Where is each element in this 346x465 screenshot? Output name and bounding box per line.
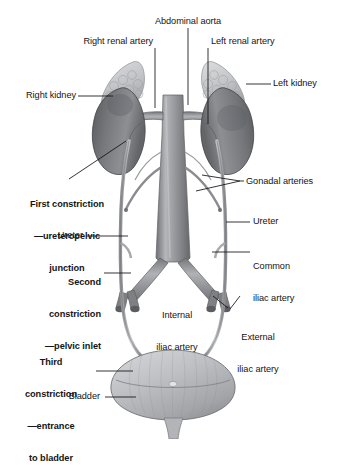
label-gonadal-arteries: Gonadal arteries	[246, 176, 346, 187]
left-kidney-group	[201, 62, 254, 175]
label-internal-iliac-artery: Internal iliac artery	[143, 289, 211, 374]
label-third-constriction-line3: —entrance	[8, 421, 94, 432]
label-ureter-right: Ureter	[253, 216, 303, 227]
label-right-kidney: Right kidney	[3, 90, 76, 101]
leader-external-iliac	[230, 296, 240, 309]
label-internal-iliac-line2: iliac artery	[143, 342, 211, 353]
urethra-shape	[164, 418, 183, 439]
label-common-iliac-line2: iliac artery	[253, 293, 333, 304]
label-first-constriction-line1: First constriction	[7, 199, 127, 210]
label-internal-iliac-line1: Internal	[143, 310, 211, 321]
label-external-iliac-artery: External iliac artery	[222, 311, 294, 396]
label-left-kidney: Left kidney	[273, 78, 343, 89]
left-gonadal-artery-shape	[186, 168, 220, 209]
label-third-constriction-line4: to bladder	[8, 453, 94, 464]
label-left-renal-artery: Left renal artery	[211, 36, 311, 47]
label-common-iliac-line1: Common	[253, 261, 333, 272]
label-second-constriction-line2: constriction	[6, 309, 101, 320]
label-abdominal-aorta: Abdominal aorta	[137, 16, 239, 27]
label-third-constriction-line1: Third	[8, 357, 94, 368]
label-external-iliac-line1: External	[222, 332, 294, 343]
right-kidney-group	[92, 62, 145, 175]
label-ureter-left: Ureter	[38, 230, 83, 241]
label-external-iliac-line2: iliac artery	[222, 364, 294, 375]
left-kidney-shape	[201, 88, 254, 175]
label-right-renal-artery: Right renal artery	[47, 36, 153, 47]
label-second-constriction-line1: Second	[6, 277, 101, 288]
label-bladder: Bladder	[52, 391, 100, 402]
right-gonadal-artery-shape	[126, 168, 160, 209]
